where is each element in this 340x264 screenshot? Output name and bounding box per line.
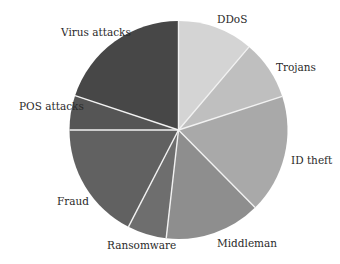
label-id-theft: ID theft bbox=[291, 155, 332, 166]
label-ransomware: Ransomware bbox=[107, 240, 176, 251]
label-trojans: Trojans bbox=[276, 62, 316, 73]
label-ddos: DDoS bbox=[217, 14, 247, 25]
label-fraud: Fraud bbox=[57, 196, 89, 207]
label-middleman: Middleman bbox=[217, 238, 277, 249]
label-pos-attacks: POS attacks bbox=[19, 101, 84, 112]
pie-chart bbox=[0, 0, 340, 264]
label-virus-attacks: Virus attacks bbox=[61, 27, 131, 38]
